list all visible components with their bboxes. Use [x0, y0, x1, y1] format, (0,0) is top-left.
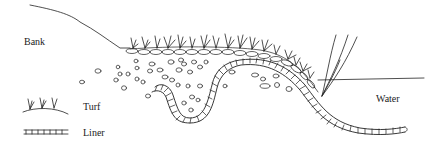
liner [152, 58, 407, 135]
pond-edge-cross-section-diagram: Bank Water Turf Liner [0, 0, 443, 151]
reed [322, 35, 357, 96]
diagram-drawing [0, 0, 443, 151]
liner-symbol [24, 130, 68, 134]
turf-grass [131, 34, 314, 78]
legend-liner-label: Liner [83, 127, 105, 138]
legend-turf-label: Turf [83, 101, 100, 112]
water-label: Water [376, 93, 400, 104]
bank-label: Bank [24, 36, 45, 47]
gravel [80, 58, 293, 112]
stone-layer [126, 47, 318, 92]
turf-symbol [23, 98, 68, 114]
